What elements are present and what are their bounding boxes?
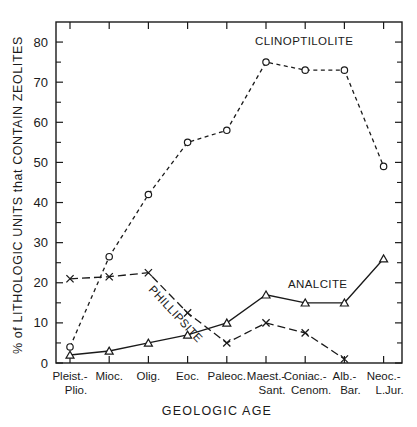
- y-tick-label: 50: [34, 155, 48, 170]
- data-point-clinoptilolite-7: [341, 67, 347, 73]
- data-point-clinoptilolite-3: [184, 139, 190, 145]
- y-tick-label: 20: [34, 275, 48, 290]
- data-point-clinoptilolite-0: [67, 344, 73, 350]
- x-tick-label: Mioc.: [95, 370, 122, 382]
- x-tick-label-line2: Cenom.: [291, 384, 331, 396]
- x-tick-label-line2: Bar.: [340, 384, 360, 396]
- series-line-analcite: [70, 259, 384, 355]
- plot-frame: [56, 22, 402, 363]
- annotation-clinoptilolite: CLINOPTILOLITE: [255, 35, 353, 47]
- x-tick-label: Coniac.-: [284, 370, 327, 382]
- x-axis-title: GEOLOGIC AGE: [162, 404, 272, 418]
- data-point-clinoptilolite-5: [263, 59, 269, 65]
- x-tick-label-line2: L.Jur.: [376, 384, 404, 396]
- data-point-clinoptilolite-1: [106, 253, 112, 259]
- data-point-analcite-8: [380, 255, 388, 262]
- annotation-analcite: ANALCITE: [288, 278, 347, 290]
- data-point-phillipsite-4: [223, 339, 230, 346]
- x-tick-label: Neoc.-: [367, 370, 401, 382]
- y-tick-label: 0: [41, 356, 48, 371]
- data-point-clinoptilolite-6: [302, 67, 308, 73]
- x-tick-label: Paleoc.: [208, 370, 246, 382]
- annotation-phillipsite: PHILLIPSITE: [147, 283, 205, 344]
- zeolite-occurrence-line-chart: 01020304050607080Pleist.-Plio.Mioc.Olig.…: [0, 0, 417, 427]
- data-point-clinoptilolite-4: [224, 127, 230, 133]
- data-point-clinoptilolite-8: [380, 163, 386, 169]
- chart-figure: 01020304050607080Pleist.-Plio.Mioc.Olig.…: [0, 0, 417, 427]
- x-tick-label-line2: Plio.: [65, 384, 87, 396]
- y-axis-title: % of LITHOLOGIC UNITS that CONTAIN ZEOLI…: [11, 36, 25, 354]
- x-tick-label: Olig.: [137, 370, 161, 382]
- x-tick-label: Alb.-: [333, 370, 357, 382]
- y-tick-label: 80: [34, 35, 48, 50]
- data-point-clinoptilolite-2: [145, 191, 151, 197]
- data-point-analcite-5: [262, 291, 270, 298]
- x-tick-label-line2: Sant.: [259, 384, 286, 396]
- series-line-clinoptilolite: [70, 62, 384, 347]
- y-tick-label: 10: [34, 315, 48, 330]
- y-tick-label: 60: [34, 115, 48, 130]
- x-tick-label: Eoc.: [176, 370, 199, 382]
- y-tick-label: 40: [34, 195, 48, 210]
- x-tick-label: Pleist.-: [52, 370, 87, 382]
- y-tick-label: 30: [34, 235, 48, 250]
- y-tick-label: 70: [34, 75, 48, 90]
- x-tick-label: Maest.-: [247, 370, 286, 382]
